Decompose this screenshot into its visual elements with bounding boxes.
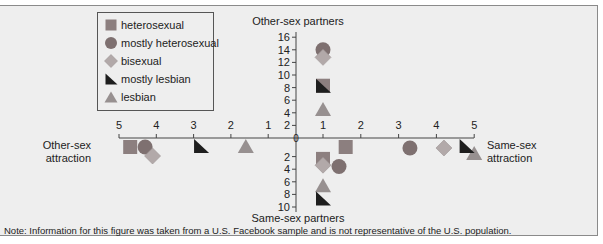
x-tick-label: 3 xyxy=(396,119,402,131)
y-tick-label: 2 xyxy=(284,151,290,163)
mostly-heterosexual-marker xyxy=(105,37,117,49)
mostly-lesbian-marker xyxy=(194,139,209,153)
y-tick-label: 8 xyxy=(284,188,290,200)
top-axis-title: Other-sex partners xyxy=(252,15,344,27)
right-axis-title: Same-sex xyxy=(487,139,537,151)
legend-label: lesbian xyxy=(121,91,156,103)
mostly-lesbian-marker xyxy=(316,192,331,206)
right-axis-title: attraction xyxy=(487,152,532,164)
y-tick-label: 4 xyxy=(284,163,290,175)
x-tick-label: 3 xyxy=(191,119,197,131)
mostly-heterosexual-marker xyxy=(332,159,347,174)
legend-label: heterosexual xyxy=(121,19,184,31)
y-tick-label: 6 xyxy=(284,94,290,106)
legend-label: mostly heterosexual xyxy=(121,37,219,49)
y-tick-label: 16 xyxy=(278,31,290,43)
y-tick-label: 14 xyxy=(278,44,290,56)
y-tick-label: 4 xyxy=(284,107,290,119)
x-tick-label: 5 xyxy=(116,119,122,131)
lesbian-marker xyxy=(238,139,254,153)
x-tick-label: 2 xyxy=(228,119,234,131)
figure-note: Note: Information for this figure was ta… xyxy=(4,225,511,236)
lesbian-marker xyxy=(315,102,331,116)
x-tick-label: 2 xyxy=(358,119,364,131)
left-axis-title: Other-sex xyxy=(43,139,92,151)
y-tick-label: 6 xyxy=(284,176,290,188)
y-tick-label: 12 xyxy=(278,56,290,68)
y-tick-label: 10 xyxy=(278,69,290,81)
legend-label: mostly lesbian xyxy=(121,73,191,85)
x-tick-label: 1 xyxy=(265,119,271,131)
legend-label: bisexual xyxy=(121,55,161,67)
heterosexual-marker xyxy=(339,140,353,154)
y-tick-label: 2 xyxy=(284,119,290,131)
lesbian-marker xyxy=(315,178,331,192)
heterosexual-marker xyxy=(123,140,137,154)
y-tick-label: 8 xyxy=(284,82,290,94)
bisexual-marker xyxy=(436,140,452,156)
x-tick-label: 1 xyxy=(320,119,326,131)
x-tick-label: 4 xyxy=(153,119,159,131)
mostly-heterosexual-marker xyxy=(402,141,417,156)
left-axis-title: attraction xyxy=(46,152,91,164)
quadrant-scatter-chart: heterosexualmostly heterosexualbisexualm… xyxy=(0,0,603,244)
origin-label: 0 xyxy=(293,133,299,144)
x-tick-label: 5 xyxy=(471,119,477,131)
heterosexual-marker xyxy=(106,20,117,31)
chart-legend: heterosexualmostly heterosexualbisexualm… xyxy=(98,13,219,111)
bottom-axis-title: Same-sex partners xyxy=(252,212,345,224)
x-tick-label: 4 xyxy=(433,119,439,131)
